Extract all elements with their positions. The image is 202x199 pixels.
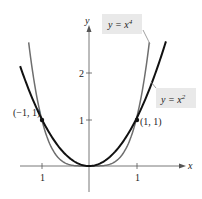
chart: x y 1 1 1 2 y = x4 y = x2 (−1, 1) (1, 1): [0, 0, 202, 199]
x-axis-label: x: [187, 160, 193, 171]
y-axis-arrow-icon: [87, 25, 92, 32]
point-label-1-1: (1, 1): [140, 116, 162, 128]
y-axis-label: y: [84, 15, 90, 26]
label-x2: y = x2: [151, 82, 196, 108]
x-tick-label-1: 1: [135, 172, 140, 183]
y-tick-label-1: 1: [79, 115, 84, 126]
y-tick-label-2: 2: [79, 68, 84, 79]
curve-x2: [20, 41, 166, 166]
label-x4: y = x4: [102, 14, 150, 44]
x-axis-arrow-icon: [179, 164, 186, 169]
point-label-neg1-1: (−1, 1): [13, 107, 40, 119]
point-1-1: [135, 118, 139, 122]
x-tick-label-neg1: 1: [40, 172, 45, 183]
point-neg1-1: [40, 118, 44, 122]
